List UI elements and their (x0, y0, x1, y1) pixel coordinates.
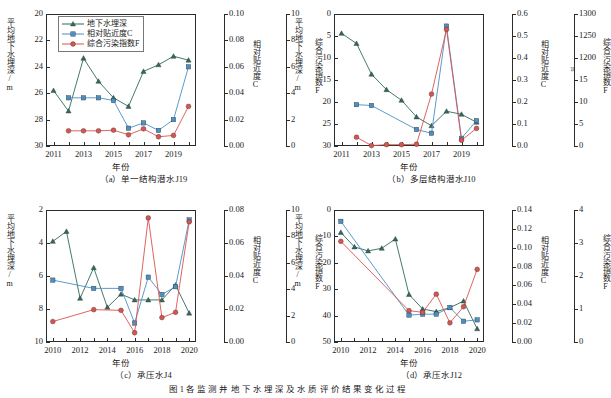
y-right1-tick-label: 0.02 (229, 303, 244, 313)
series-layer (46, 210, 196, 342)
y-right1-tick-label: 0.10 (229, 8, 244, 18)
y-right1-tick (512, 14, 516, 15)
x-axis-title: 年份 (334, 356, 484, 368)
y-left-tick (334, 342, 338, 343)
y-right1-tick-label: 0.08 (229, 204, 244, 214)
x-tick-label: 2012 (66, 345, 94, 355)
y-left-tick-label: 2 (39, 204, 43, 214)
subplot-c: 246810平均地下水埋深/m201020122014201620182020年… (0, 196, 287, 392)
y-right1-tick (512, 323, 516, 324)
y-right1-tick-label: 0.06 (229, 61, 244, 71)
y-right1-tick-label: 0.1 (517, 118, 528, 128)
y-left-tick-label: 25 (323, 118, 332, 128)
legend: 地下水埋深相对贴近度C综合污染指数F (58, 16, 144, 52)
legend-circle-icon (62, 44, 84, 45)
y-right1-tick-label: 0.2 (517, 96, 528, 106)
y-left-tick-label: 8 (39, 303, 43, 313)
y-right1-tick (224, 93, 228, 94)
y-right1-tick (512, 229, 516, 230)
legend-triangle-icon (62, 24, 84, 25)
y-right2-tick (574, 80, 578, 81)
y-right1-tick (512, 102, 516, 103)
y-right1-tick-label: 0.6 (517, 8, 528, 18)
y-right1-tick (512, 342, 516, 343)
figure-caption: 图 1 各 监 测 井 地 下 水 埋 深 及 水 质 评 价 结 果 变 化 … (0, 382, 575, 394)
y-right1-tick (512, 80, 516, 81)
x-tick-label: 2014 (381, 345, 409, 355)
y-right1-tick (512, 304, 516, 305)
x-tick-label: 2019 (160, 149, 188, 159)
subplot-caption-a: （a）单一结构潜水J19 (0, 172, 287, 184)
y-left-tick-label: 20 (35, 8, 44, 18)
x-tick-label: 2011 (40, 149, 68, 159)
y-right2-tick (574, 36, 578, 37)
x-tick-label: 2018 (148, 345, 176, 355)
y-right1-tick-label: 0.0 (517, 140, 528, 150)
y-right2-tick (574, 102, 578, 103)
y-left-tick-label: 30 (323, 283, 332, 293)
y-right2-tick (574, 210, 578, 211)
y-left-tick-label: 5 (327, 30, 331, 40)
y-right2-tick-label: 15 (579, 74, 588, 84)
y-right1-tick-label: 0.12 (517, 223, 532, 233)
y-right2-axis-title: 综合污染指数F (600, 38, 611, 95)
y-right2-tick-label: 1300 (579, 8, 596, 18)
y-right-pollution-axis (286, 210, 287, 342)
x-axis-title: 年份 (46, 160, 196, 172)
x-tick-label: 2011 (328, 149, 356, 159)
axis-break-icon: ≈ (567, 65, 578, 72)
y-left-tick-label: 6 (39, 270, 43, 280)
y-right1-tick (224, 14, 228, 15)
y-right2-axis-title: 综合污染指数F (600, 234, 611, 291)
y-right1-tick-label: 0.00 (229, 140, 244, 150)
y-right1-tick (512, 124, 516, 125)
y-right2-tick (574, 342, 578, 343)
subplot-b: 051015202530平均地下水埋深/m2011201320152017201… (288, 0, 575, 196)
y-right1-tick-label: 0.06 (229, 237, 244, 247)
y-right1-tick (224, 276, 228, 277)
legend-item: 相对贴近度C (62, 29, 139, 39)
legend-label: 地下水埋深 (87, 19, 127, 29)
y-right1-tick (224, 67, 228, 68)
y-right1-tick-label: 0.3 (517, 74, 528, 84)
subplot-caption-d: （d）承压水J12 (288, 368, 575, 380)
y-left-tick-label: 10 (323, 52, 332, 62)
y-right1-tick (224, 146, 228, 147)
x-tick-label: 2018 (436, 345, 464, 355)
y-left-tick-label: 15 (323, 74, 332, 84)
y-left-tick-label: 0 (327, 204, 331, 214)
y-left-tick (46, 342, 50, 343)
y-right2-tick (574, 309, 578, 310)
y-left-axis-title: 平均地下水埋深/m (292, 18, 303, 142)
y-right1-axis-title: 相对贴近度C (538, 40, 549, 89)
y-right1-tick-label: 0.00 (229, 336, 244, 346)
y-right2-tick-label: 2 (579, 270, 583, 280)
y-right2-tick-label: 5 (579, 118, 583, 128)
x-tick-label: 2015 (100, 149, 128, 159)
y-right1-tick (224, 120, 228, 121)
x-tick-label: 2017 (130, 149, 158, 159)
x-axis-title: 年份 (334, 160, 484, 172)
y-left-tick-label: 20 (323, 96, 332, 106)
y-left-axis-title: 平均地下水埋深/m (292, 214, 303, 338)
x-tick-label: 2020 (175, 345, 203, 355)
y-right2-tick-label: 0 (579, 140, 583, 150)
x-tick-label: 2016 (121, 345, 149, 355)
y-right1-tick (512, 36, 516, 37)
y-right1-tick-label: 0.08 (229, 34, 244, 44)
y-right2-tick-label: 1250 (579, 30, 596, 40)
y-right1-tick-label: 0.10 (517, 242, 532, 252)
y-right1-tick-label: 0.02 (229, 114, 244, 124)
legend-item: 地下水埋深 (62, 19, 139, 29)
subplot-caption-b: （b）多层结构潜水J10 (288, 172, 575, 184)
subplot-d: 01020304050平均地下水埋深/m20102012201420162018… (288, 196, 575, 392)
y-right1-tick-label: 0.04 (229, 87, 244, 97)
y-right1-tick-label: 0.5 (517, 30, 528, 40)
legend-label: 相对贴近度C (87, 29, 132, 39)
y-right1-tick (224, 243, 228, 244)
y-right1-tick-label: 0.4 (517, 52, 528, 62)
x-tick-label: 2020 (463, 345, 491, 355)
x-tick-label: 2013 (358, 149, 386, 159)
y-right1-axis-title: 相对贴近度C (538, 236, 549, 285)
